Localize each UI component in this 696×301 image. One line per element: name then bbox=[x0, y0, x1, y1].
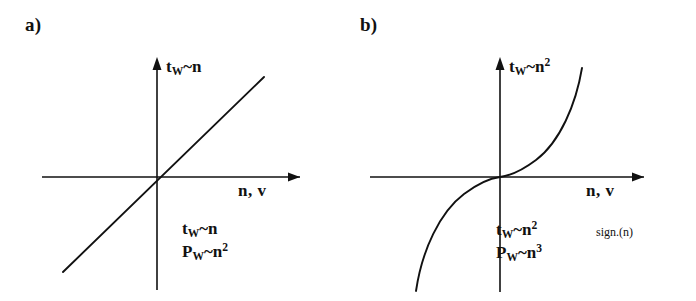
y-label-exponent: 2 bbox=[545, 56, 551, 69]
note-sub: W bbox=[192, 250, 204, 263]
y-label-relation: ~ bbox=[526, 57, 535, 76]
panel-a-plot bbox=[0, 0, 348, 301]
y-label-relation: ~ bbox=[183, 57, 192, 76]
note-base: P bbox=[496, 243, 506, 262]
note-arg: n bbox=[213, 242, 222, 261]
note-exponent: 2 bbox=[222, 241, 228, 254]
panel-a: a) tW~n n, v tW~n PW~n2 bbox=[0, 0, 348, 301]
panel-a-notes: tW~n PW~n2 bbox=[182, 220, 228, 263]
note-relation: ~ bbox=[199, 219, 208, 238]
note-base: P bbox=[182, 242, 192, 261]
y-label-arg: n bbox=[192, 57, 201, 76]
panel-b-x-axis-label: n, v bbox=[586, 182, 614, 200]
panel-b-notes: tW~n2 PW~n3 bbox=[496, 220, 542, 264]
note-arg: n bbox=[527, 243, 536, 262]
curve-linear bbox=[63, 77, 264, 272]
note-arg: n bbox=[208, 219, 217, 238]
note-exponent: 2 bbox=[532, 219, 538, 232]
panel-b-y-axis-label: tW~n2 bbox=[509, 57, 550, 78]
note-arg: n bbox=[522, 220, 531, 239]
y-label-arg: n bbox=[535, 57, 544, 76]
y-axis-arrowhead bbox=[496, 57, 505, 70]
panel-a-x-axis-label: n, v bbox=[238, 182, 266, 200]
note-sub: W bbox=[506, 250, 518, 263]
note-relation: ~ bbox=[204, 242, 213, 261]
panel-b: b) tW~n2 n, v tW~n2 PW~n3 sign.(n) bbox=[348, 0, 696, 301]
panel-b-sign-note: sign.(n) bbox=[596, 225, 633, 240]
panel-a-note-2: PW~n2 bbox=[182, 242, 228, 263]
note-exponent: 3 bbox=[536, 242, 542, 255]
note-sub: W bbox=[188, 227, 200, 240]
figure-root: a) tW~n n, v tW~n PW~n2 b) bbox=[0, 0, 696, 301]
x-axis-arrowhead bbox=[288, 173, 300, 182]
y-label-sub: W bbox=[515, 65, 527, 78]
x-axis-arrowhead bbox=[632, 173, 644, 182]
y-axis-arrowhead bbox=[153, 57, 162, 70]
note-sub: W bbox=[502, 228, 514, 241]
note-relation: ~ bbox=[513, 220, 522, 239]
y-label-sub: W bbox=[172, 65, 184, 78]
panel-b-note-1: tW~n2 bbox=[496, 220, 542, 241]
panel-a-y-axis-label: tW~n bbox=[166, 58, 202, 78]
note-relation: ~ bbox=[518, 243, 527, 262]
panel-b-note-2: PW~n3 bbox=[496, 243, 542, 264]
panel-a-note-1: tW~n bbox=[182, 220, 228, 240]
